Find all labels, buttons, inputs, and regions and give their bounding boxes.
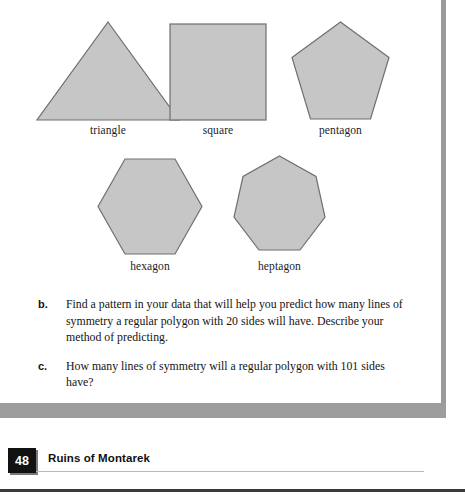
page-edge-bottom <box>0 403 446 418</box>
heptagon-shape <box>230 154 329 258</box>
footer-divider <box>36 471 424 472</box>
polygon-figure-group: triangle square pentagon hexagon <box>0 0 440 285</box>
triangle-shape <box>35 20 181 122</box>
shape-label-hexagon: hexagon <box>95 260 205 272</box>
exercise-list: b. Find a pattern in your data that will… <box>38 296 413 403</box>
shape-label-triangle: triangle <box>35 124 181 136</box>
hexagon-shape <box>95 156 205 258</box>
page-edge-bottom-dark <box>0 489 465 492</box>
exercise-text-b: Find a pattern in your data that will he… <box>66 296 413 346</box>
page-footer: 48 Ruins of Montarek <box>0 444 465 478</box>
exercise-text-c: How many lines of symmetry will a regula… <box>66 358 413 391</box>
pentagon-shape <box>289 19 392 122</box>
running-title: Ruins of Montarek <box>48 452 150 464</box>
square-shape <box>168 20 268 122</box>
exercise-marker-c: c. <box>38 358 66 375</box>
exercise-item-c: c. How many lines of symmetry will a reg… <box>38 358 413 391</box>
shape-label-heptagon: heptagon <box>230 260 329 272</box>
exercise-item-b: b. Find a pattern in your data that will… <box>38 296 413 346</box>
page-edge-right <box>441 0 446 408</box>
shape-label-pentagon: pentagon <box>289 124 392 136</box>
shape-label-square: square <box>168 124 268 136</box>
page-number-badge: 48 <box>8 448 36 473</box>
exercise-marker-b: b. <box>38 296 66 313</box>
